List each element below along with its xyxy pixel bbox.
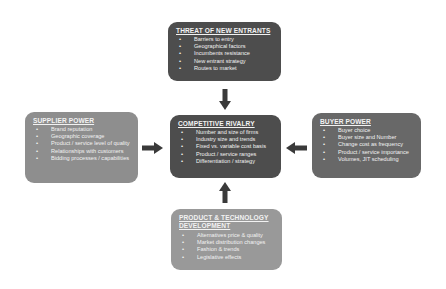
threat-of-new-entrants-box: THREAT OF NEW ENTRANTS •Barriers to entr… [168,22,281,81]
buyer-list: •Buyer choice •Buyer size and Number •Ch… [320,127,413,163]
list-item: •Industry size and trends [178,136,273,143]
bullet-icon: • [179,43,181,50]
product-list: •Alternatives price & quality •Market di… [179,232,274,261]
bullet-icon: • [36,148,38,155]
bullet-icon: • [181,136,183,143]
bullet-icon: • [181,158,183,165]
list-item: •Change cost as frequency [320,141,413,148]
bullet-icon: • [323,141,325,148]
list-item: •Bidding processes / capabilities [33,155,130,162]
list-item: •Geographical factors [176,43,273,50]
arrow-right-icon [142,142,163,154]
list-item: •Differentiation / strategy [178,158,273,165]
bullet-icon: • [323,134,325,141]
arrow-left-icon [286,142,307,154]
supplier-title: SUPPLIER POWER [33,117,130,125]
bullet-icon: • [181,151,183,158]
list-item: •Alternatives price & quality [179,232,274,239]
list-item: •Product / service ranges [178,151,273,158]
list-item: •Fashion & trends [179,246,274,253]
bullet-icon: • [323,149,325,156]
list-item: •Relationships with customers [33,148,130,155]
list-item: •New entrant strategy [176,58,273,65]
bullet-icon: • [182,254,184,261]
threat-list: •Barriers to entry •Geographical factors… [176,36,273,72]
bullet-icon: • [36,155,38,162]
bullet-icon: • [323,156,325,163]
list-item: •Incumbents resistance [176,50,273,57]
bullet-icon: • [36,140,38,147]
list-item: •Fixed vs. variable cost basis [178,143,273,150]
bullet-icon: • [181,129,183,136]
bullet-icon: • [179,65,181,72]
bullet-icon: • [36,126,38,133]
bullet-icon: • [179,36,181,43]
arrow-down-icon [219,89,231,110]
competitive-rivalry-box: COMPETITIVE RIVALRY •Number and size of … [170,115,281,178]
buyer-title: BUYER POWER [320,118,413,126]
product-technology-box: PRODUCT & TECHNOLOGY DEVELOPMENT •Altern… [171,209,282,270]
bullet-icon: • [181,143,183,150]
list-item: •Legislative effects [179,254,274,261]
list-item: •Routes to market [176,65,273,72]
list-item: •Brand reputation [33,126,130,133]
bullet-icon: • [179,58,181,65]
bullet-icon: • [36,133,38,140]
list-item: •Geographic coverage [33,133,130,140]
list-item: •Barriers to entry [176,36,273,43]
bullet-icon: • [182,239,184,246]
threat-title: THREAT OF NEW ENTRANTS [176,27,273,35]
list-item: •Market distribution changes [179,239,274,246]
list-item: •Volumes, JIT scheduling [320,156,413,163]
rivalry-title: COMPETITIVE RIVALRY [178,120,273,128]
bullet-icon: • [182,246,184,253]
list-item: •Product / service level of quality [33,140,130,147]
list-item: •Buyer size and Number [320,134,413,141]
product-title: PRODUCT & TECHNOLOGY DEVELOPMENT [179,214,274,230]
list-item: •Buyer choice [320,127,413,134]
bullet-icon: • [323,127,325,134]
buyer-power-box: BUYER POWER •Buyer choice •Buyer size an… [312,113,421,178]
arrow-up-icon [219,182,231,203]
supplier-list: •Brand reputation •Geographic coverage •… [33,126,130,162]
rivalry-list: •Number and size of firms •Industry size… [178,129,273,165]
list-item: •Number and size of firms [178,129,273,136]
bullet-icon: • [179,50,181,57]
supplier-power-box: SUPPLIER POWER •Brand reputation •Geogra… [25,112,138,183]
list-item: •Product / service importance [320,149,413,156]
bullet-icon: • [182,232,184,239]
